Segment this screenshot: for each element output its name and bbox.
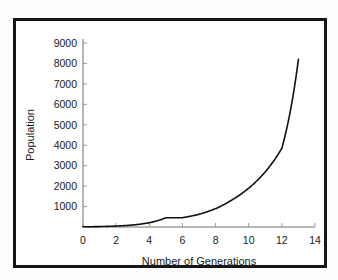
caption-remnant-text xyxy=(40,0,160,4)
y-tick-label: 5000 xyxy=(54,119,78,131)
y-axis: 100020003000400050006000700080009000 xyxy=(54,37,87,227)
figure-root: 100020003000400050006000700080009000 024… xyxy=(0,0,338,280)
x-tick-label: 0 xyxy=(80,234,86,246)
y-tick-label: 7000 xyxy=(54,78,78,90)
x-axis-title: Number of Generations xyxy=(142,255,257,265)
x-tick-label: 4 xyxy=(146,234,152,246)
x-tick-label: 10 xyxy=(243,234,255,246)
x-tick-label: 14 xyxy=(309,234,321,246)
population-curve xyxy=(83,59,298,226)
y-tick-label: 2000 xyxy=(54,180,78,192)
y-axis-title: Population xyxy=(24,109,36,161)
y-tick-label: 6000 xyxy=(54,98,78,110)
x-tick-label: 6 xyxy=(180,234,186,246)
x-tick-label: 2 xyxy=(113,234,119,246)
population-growth-chart: 100020003000400050006000700080009000 024… xyxy=(16,21,324,265)
x-tick-label: 8 xyxy=(213,234,219,246)
y-tick-label: 1000 xyxy=(54,200,78,212)
y-tick-label: 4000 xyxy=(54,139,78,151)
y-tick-label: 3000 xyxy=(54,159,78,171)
y-tick-label: 8000 xyxy=(54,57,78,69)
x-tick-label: 12 xyxy=(276,234,288,246)
chart-frame: 100020003000400050006000700080009000 024… xyxy=(13,18,327,268)
y-tick-label: 9000 xyxy=(54,37,78,49)
